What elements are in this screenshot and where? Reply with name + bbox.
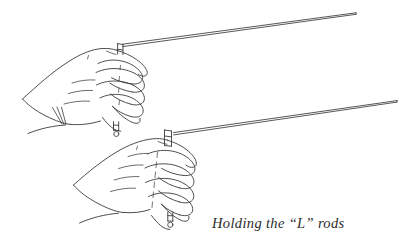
figure-caption: Holding the “L” rods: [212, 216, 345, 231]
figure-container: Holding the “L” rods: [0, 0, 419, 250]
line-drawing-illustration: [0, 0, 419, 250]
